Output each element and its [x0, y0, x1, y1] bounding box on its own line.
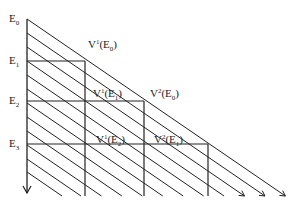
diagonal-line: [27, 61, 224, 196]
axis-label-e2: E2: [9, 94, 20, 109]
arrowhead-icon: [279, 191, 285, 196]
filtration-axis: [23, 19, 31, 193]
filtration-diagram: E0E1E2E3 V1(E0)V1(E1)V2(E0)V1(E2)V2(E1): [0, 0, 300, 214]
arrowhead-icon: [239, 191, 245, 196]
axis-label-e3: E3: [9, 137, 20, 152]
diagonal-line: [27, 145, 101, 196]
diagonal-line: [27, 47, 245, 196]
cell-label: V2(E0): [150, 87, 179, 102]
diagonal-line: [27, 172, 62, 196]
arrowhead-icon: [259, 191, 265, 196]
diagonal-line: [27, 19, 285, 196]
diagonal-line: [27, 103, 163, 196]
axis-label-e1: E1: [9, 54, 20, 69]
horizontal-lines: [27, 61, 208, 144]
cell-label: V1(E1): [93, 87, 122, 102]
diagonal-lines: [27, 19, 285, 196]
cell-label: V2(E1): [154, 133, 183, 148]
axis-labels: E0E1E2E3: [9, 12, 20, 152]
diagonal-line: [27, 33, 265, 196]
axis-label-e0: E0: [9, 12, 20, 27]
cell-label: V1(E0): [88, 38, 117, 53]
